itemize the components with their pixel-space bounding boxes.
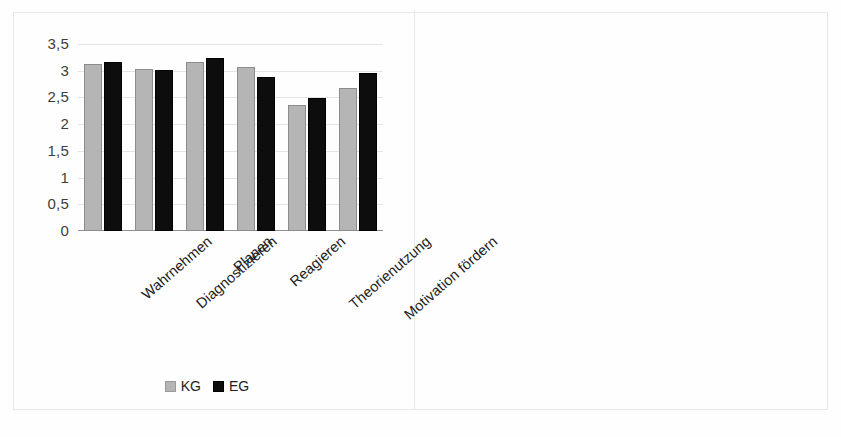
y-axis-tick-label: 1,5 xyxy=(48,142,69,159)
bar-eg-value xyxy=(155,70,173,231)
legend-item-kg: KG xyxy=(165,378,201,394)
bar-group xyxy=(281,44,332,231)
figure-container: 00,511,522,533,5 WahrnehmenDiagnostizier… xyxy=(0,0,841,437)
legend-label-kg: KG xyxy=(181,378,201,394)
bar-kg-value xyxy=(339,88,357,231)
y-axis-tick-label: 3 xyxy=(60,62,69,79)
bar-kg-value xyxy=(186,62,204,231)
bar-eg-value xyxy=(308,98,326,231)
bar-group xyxy=(180,44,231,231)
legend-swatch-kg xyxy=(165,381,176,392)
bar-kg-value xyxy=(84,64,102,231)
bar-eg-value xyxy=(359,73,377,231)
bar-group xyxy=(78,44,129,231)
legend-item-eg: EG xyxy=(213,378,249,394)
bar-eg-value xyxy=(206,58,224,231)
bar-kg-value xyxy=(135,69,153,231)
x-axis-label: Reagieren xyxy=(287,233,349,290)
bar-kg-value xyxy=(288,105,306,231)
y-axis-tick-label: 0 xyxy=(60,222,69,239)
legend-label-eg: EG xyxy=(229,378,249,394)
legend-swatch-eg xyxy=(213,381,224,392)
y-axis-tick-label: 3,5 xyxy=(48,35,69,52)
bar-group xyxy=(231,44,282,231)
bar-eg-value xyxy=(257,77,275,231)
left-chart-x-axis-labels: WahrnehmenDiagnostizierenPlanenReagieren… xyxy=(78,233,383,353)
left-chart-panel: 00,511,522,533,5 WahrnehmenDiagnostizier… xyxy=(0,0,414,437)
y-axis-tick-label: 2 xyxy=(60,115,69,132)
y-axis-tick-label: 0,5 xyxy=(48,195,69,212)
right-chart-panel: 0510152025 WahrnehmenDiagnostizierenPlan… xyxy=(415,0,841,437)
y-axis-tick-label: 2,5 xyxy=(48,89,69,106)
y-axis-tick-label: 1 xyxy=(60,169,69,186)
bar-kg-value xyxy=(237,67,255,231)
bar-group xyxy=(129,44,180,231)
left-chart-plot-area: 00,511,522,533,5 xyxy=(78,44,383,231)
bar-eg-value xyxy=(104,62,122,231)
left-chart-legend: KG EG xyxy=(0,378,414,394)
bar-group xyxy=(332,44,383,231)
